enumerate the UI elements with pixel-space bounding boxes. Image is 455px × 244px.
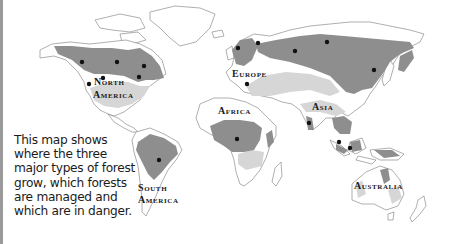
label-asia: Asia [312, 101, 333, 112]
label-south-america: America [138, 194, 179, 205]
greenland [150, 6, 215, 46]
map-frame: North America Europe Africa Asia South A… [0, 0, 455, 244]
label-europe: Europe [232, 68, 267, 79]
label-america: America [93, 89, 134, 100]
tropical-africa [210, 120, 262, 152]
tropical-se-asia [332, 116, 352, 134]
map-caption: This map shows where the three major typ… [14, 133, 144, 218]
arctic-islands [95, 14, 145, 32]
label-north: North [94, 76, 125, 87]
central-america [108, 114, 138, 132]
new-zealand [410, 196, 426, 222]
madagascar [272, 162, 282, 186]
label-australia: Australia [354, 180, 403, 191]
tasmania [388, 212, 394, 220]
label-africa: Africa [218, 105, 251, 116]
